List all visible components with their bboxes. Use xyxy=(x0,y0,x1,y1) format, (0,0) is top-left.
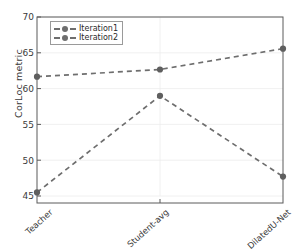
legend-marker-icon xyxy=(54,33,76,42)
legend-label-iteration2: Iteration2 xyxy=(79,33,118,42)
series-iteration2-point-teacher xyxy=(34,74,40,80)
series-iteration1-point-student-avg xyxy=(157,93,163,99)
series-iteration2-point-student-avg xyxy=(157,66,163,72)
legend-marker-icon xyxy=(54,24,76,33)
series-iteration1-point-teacher xyxy=(34,189,40,195)
chart-legend: Iteration1 Iteration2 xyxy=(50,21,123,45)
series-iteration1-point-dilatedunet xyxy=(280,174,286,180)
chart-figure: CorLoc metric 70 65 60 55 50 45 xyxy=(0,0,305,250)
series-iteration2-point-dilatedunet xyxy=(280,46,286,52)
legend-item-iteration2[interactable]: Iteration2 xyxy=(54,33,118,42)
legend-label-iteration1: Iteration1 xyxy=(79,24,118,33)
legend-item-iteration1[interactable]: Iteration1 xyxy=(54,24,118,33)
